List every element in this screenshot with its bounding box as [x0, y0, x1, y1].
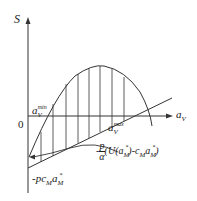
- origin-label: 0: [18, 119, 24, 130]
- x-axis-arrow-icon: [166, 114, 173, 119]
- y-axis-label: S: [14, 13, 20, 25]
- a-min-label: aVmin: [32, 104, 47, 119]
- a-max-label: aVmax: [108, 121, 124, 136]
- diagram-graphics: [0, 0, 197, 201]
- x-axis-label: aV: [176, 109, 186, 123]
- diagram-canvas: S aV 0 aVmin aVmax -pcMaM* -pα(U(aM*)-cM…: [0, 0, 197, 201]
- y-axis-arrow-icon: [26, 17, 31, 24]
- annotation-formula: -pα(U(aM*)-cMaM*): [96, 141, 158, 162]
- intercept-label: -pcMaM*: [32, 172, 62, 187]
